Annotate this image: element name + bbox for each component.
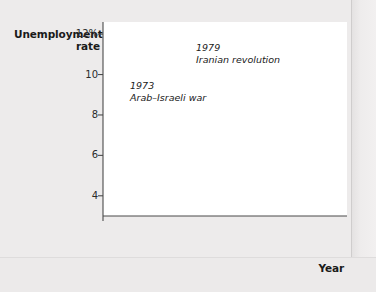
axes-group <box>98 22 347 221</box>
figure-container: Unemployment rate Year 12%10864 1973 Ara… <box>0 0 376 292</box>
chart-svg <box>0 0 376 292</box>
